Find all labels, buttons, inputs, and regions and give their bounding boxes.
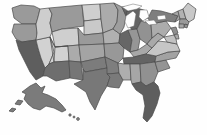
state-NM[interactable] (69, 61, 83, 80)
state-AL[interactable] (130, 64, 141, 84)
state-WY[interactable] (52, 28, 79, 47)
us-choropleth-map-figure (0, 0, 207, 135)
us-map-svg (0, 0, 207, 135)
state-ND[interactable] (82, 4, 101, 21)
lake-ontario (157, 15, 166, 20)
state-SD[interactable] (84, 19, 103, 35)
state-CT[interactable] (179, 24, 184, 28)
state-RI[interactable] (184, 24, 188, 28)
